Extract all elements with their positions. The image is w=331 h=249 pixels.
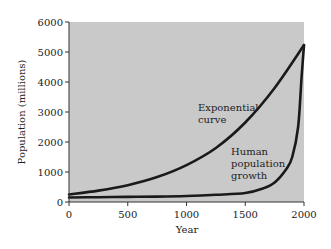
x-tick-label: 1500 xyxy=(233,209,258,220)
y-tick-label: 3000 xyxy=(38,107,63,118)
y-tick-label: 1000 xyxy=(38,167,63,178)
y-tick-label: 2000 xyxy=(38,137,63,148)
y-axis-label: Population (millions) xyxy=(16,59,27,164)
y-tick-label: 0 xyxy=(57,197,63,208)
y-ticks: 0100020003000400050006000 xyxy=(38,17,69,208)
y-tick-label: 6000 xyxy=(38,17,63,28)
x-tick-label: 0 xyxy=(66,209,72,220)
population-chart: 0100020003000400050006000 05001000150020… xyxy=(0,0,331,249)
y-tick-label: 5000 xyxy=(38,47,63,58)
x-tick-label: 500 xyxy=(118,209,137,220)
x-ticks: 0500100015002000 xyxy=(66,202,317,220)
y-tick-label: 4000 xyxy=(38,77,63,88)
x-tick-label: 2000 xyxy=(291,209,316,220)
x-tick-label: 1000 xyxy=(174,209,199,220)
plot-area xyxy=(69,22,304,202)
x-axis-label: Year xyxy=(175,224,199,235)
